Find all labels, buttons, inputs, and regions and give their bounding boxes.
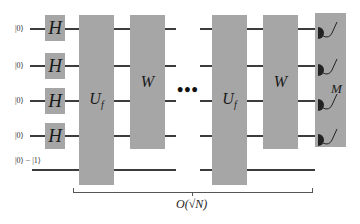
wire-q2-f — [298, 100, 315, 102]
wire-q2-a — [64, 100, 80, 102]
wire-q1-c — [165, 65, 176, 67]
wire-q3-a — [64, 135, 80, 137]
wire-q1-f — [298, 65, 315, 67]
input-label-q0: |0⟩ — [15, 24, 24, 34]
wire-q1-in — [30, 65, 46, 67]
repetition-bracket — [73, 188, 313, 193]
wire-q3-c — [165, 135, 176, 137]
diffusion-gate-2: W — [263, 15, 298, 149]
measurement-block: M — [315, 13, 346, 147]
wire-q2-c — [165, 100, 176, 102]
wire-q3-e — [247, 135, 263, 137]
diffusion-label: W — [141, 73, 154, 91]
wire-ancilla-b — [114, 169, 176, 171]
wire-q3-in — [30, 135, 46, 137]
wire-q1-e — [247, 65, 263, 67]
hadamard-label: H — [48, 125, 62, 147]
wire-q0-a — [64, 28, 80, 30]
wire-q0-c — [165, 28, 176, 30]
wire-ancilla-a — [32, 169, 80, 171]
hadamard-gate-q2: H — [45, 88, 65, 114]
hadamard-gate-q1: H — [45, 53, 65, 79]
hadamard-label: H — [48, 17, 62, 39]
oracle-label: Uf — [89, 90, 103, 110]
bracket-tick — [192, 192, 193, 196]
diffusion-label: W — [274, 73, 287, 91]
diffusion-gate-1: W — [130, 15, 165, 149]
input-label-q2: |0⟩ — [15, 96, 24, 106]
meter-icon-q1 — [315, 56, 346, 80]
wire-q1-d — [200, 65, 212, 67]
meter-icon-q0 — [315, 19, 346, 43]
wire-q2-d — [200, 100, 212, 102]
wire-q3-b — [114, 135, 130, 137]
wire-q2-e — [247, 100, 263, 102]
wire-q0-e — [247, 28, 263, 30]
meter-icon-q3 — [315, 126, 346, 150]
wire-q3-d — [200, 135, 212, 137]
wire-q1-b — [114, 65, 130, 67]
wire-q3-f — [298, 135, 315, 137]
hadamard-label: H — [48, 55, 62, 77]
wire-q0-in — [30, 28, 46, 30]
wire-q1-a — [64, 65, 80, 67]
wire-q0-d — [200, 28, 212, 30]
input-label-q1: |0⟩ — [15, 61, 24, 71]
oracle-gate-2: Uf — [212, 15, 247, 185]
hadamard-gate-q0: H — [45, 15, 65, 41]
input-label-q3: |0⟩ — [15, 131, 24, 141]
ellipsis: ••• — [177, 85, 199, 95]
oracle-gate-1: Uf — [79, 15, 114, 185]
repetition-label: O(√N) — [176, 197, 207, 212]
measure-label: M — [331, 81, 342, 97]
wire-q0-f — [298, 28, 315, 30]
wire-ancilla-c — [200, 169, 212, 171]
wire-ancilla-d — [247, 169, 315, 171]
wire-q2-in — [30, 100, 46, 102]
hadamard-gate-q3: H — [45, 123, 65, 149]
hadamard-label: H — [48, 90, 62, 112]
wire-q2-b — [114, 100, 130, 102]
input-label-ancilla: |0⟩ − |1⟩ — [15, 156, 41, 166]
wire-q0-b — [114, 28, 130, 30]
oracle-label: Uf — [222, 90, 236, 110]
